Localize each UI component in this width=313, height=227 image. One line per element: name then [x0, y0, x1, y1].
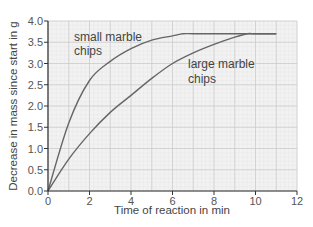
annotation-small-chips-line2: chips — [74, 44, 102, 58]
y-tick-label: 3.5 — [28, 36, 43, 48]
y-tick-label: 4.0 — [28, 15, 43, 27]
x-tick-label: 12 — [291, 195, 303, 207]
x-axis-label: Time of reaction in min — [114, 204, 230, 216]
y-tick-label: 0.5 — [28, 164, 43, 176]
y-tick-label: 2.5 — [28, 79, 43, 91]
annotation-small-chips-line1: small marble — [74, 30, 142, 44]
x-tick-label: 10 — [249, 195, 261, 207]
y-tick-label: 1.0 — [28, 143, 43, 155]
annotation-large-chips-line2: chips — [188, 72, 216, 86]
y-tick-label: 2.0 — [28, 100, 43, 112]
annotation-large-chips-line1: large marble — [188, 57, 255, 71]
x-tick-label: 2 — [86, 195, 92, 207]
y-tick-label: 1.5 — [28, 121, 43, 133]
line-chart: 024681012 0.00.51.01.52.02.53.03.54.0 Ti… — [0, 0, 313, 227]
y-axis-label: Decrease in mass since start in g — [7, 21, 19, 190]
x-tick-label: 0 — [45, 195, 51, 207]
y-tick-label: 3.0 — [28, 58, 43, 70]
y-axis-ticks: 0.00.51.01.52.02.53.03.54.0 — [28, 15, 48, 197]
y-tick-label: 0.0 — [28, 185, 43, 197]
